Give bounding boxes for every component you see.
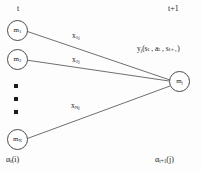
time-label-t: t — [17, 5, 19, 13]
ellipsis-dot-3 — [14, 110, 18, 114]
node-mN[interactable]: mN — [7, 129, 28, 150]
time-label-t-plus-1: t+1 — [168, 5, 179, 13]
edge-line-mN-mj — [26, 86, 170, 139]
ellipsis-dot-1 — [14, 84, 18, 88]
edge-label-x2j: x2j — [72, 56, 80, 64]
output-emission-label: yj(sₜ , aₜ , sₜ₊₁) — [137, 45, 180, 53]
node-m1[interactable]: m1 — [7, 20, 28, 41]
alpha-label-right: αt+1(j) — [155, 156, 174, 164]
node-m1-label: m1 — [14, 27, 22, 34]
edge-line-m1-mj — [26, 31, 170, 80]
node-mj-label: mj — [176, 78, 183, 85]
alpha-label-left: αt(i) — [6, 156, 19, 164]
node-m2[interactable]: m2 — [7, 49, 28, 70]
node-m2-label: m2 — [14, 56, 22, 63]
trellis-diagram: t t+1 m1 m2 mN mj x1j x2j xNj yj(sₜ , aₜ… — [0, 0, 202, 171]
edge-line-m2-mj — [26, 60, 169, 81]
edge-label-xNj: xNj — [71, 102, 80, 110]
ellipsis-dot-2 — [14, 97, 18, 101]
node-mj[interactable]: mj — [169, 71, 190, 92]
node-mN-label: mN — [13, 136, 22, 143]
edge-label-x1j: x1j — [72, 32, 80, 40]
